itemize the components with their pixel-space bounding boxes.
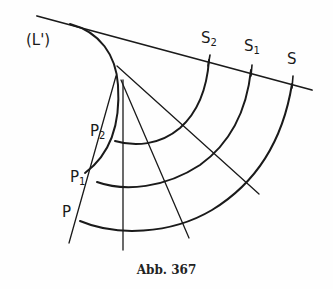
label-s1-sub: 1 <box>254 45 260 56</box>
label-p1-base: P <box>70 168 79 186</box>
label-evolute: (L') <box>26 33 50 48</box>
label-p2-base: P <box>90 122 99 140</box>
normal-ray-1 <box>69 76 116 243</box>
tick-s1 <box>251 65 252 76</box>
tick-s2 <box>208 55 210 66</box>
label-evolute-text: (L') <box>26 31 50 49</box>
tick-s <box>292 76 293 88</box>
label-p1: P1 <box>70 170 85 187</box>
normal-ray-3 <box>121 80 189 238</box>
involute-arc-p2 <box>115 60 209 144</box>
label-s2-base: S <box>201 29 211 47</box>
involute-arc-p1 <box>97 70 251 187</box>
normal-ray-4 <box>117 66 259 194</box>
figure-caption: Abb. 367 <box>0 263 333 277</box>
diagram-figure: (L') S2 S1 S P2 P1 P Abb. 367 <box>0 0 333 289</box>
label-p: P <box>62 205 71 220</box>
label-s2: S2 <box>201 31 217 48</box>
label-s2-sub: 2 <box>211 37 217 48</box>
label-s1: S1 <box>244 39 260 56</box>
label-s: S <box>287 52 297 67</box>
label-p2-sub: 2 <box>99 130 105 141</box>
label-p1-sub: 1 <box>79 176 85 187</box>
label-s1-base: S <box>244 37 254 55</box>
evolute-curve <box>70 24 118 173</box>
involute-arc-p <box>80 84 292 231</box>
label-p-text: P <box>62 203 71 221</box>
label-p2: P2 <box>90 124 105 141</box>
label-s-text: S <box>287 50 297 68</box>
